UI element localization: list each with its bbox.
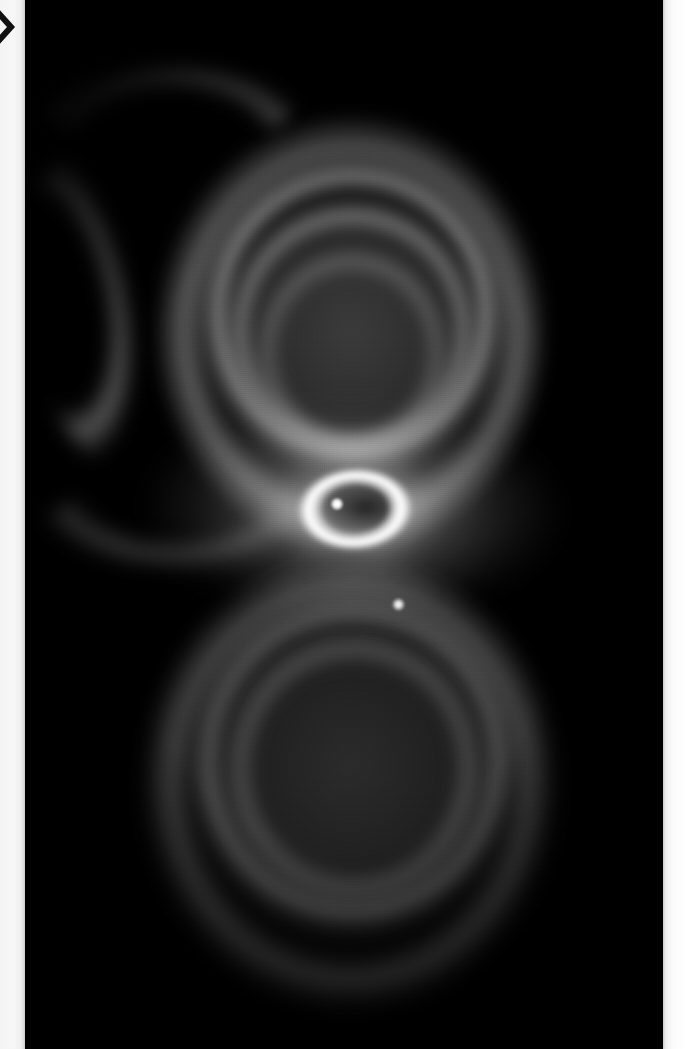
upper-ring-middle (221, 196, 483, 464)
lower-ring-inner (221, 628, 487, 908)
left-gutter-strip (0, 0, 25, 1049)
upper-ring-inner (253, 246, 451, 456)
upper-lobe-rim (153, 112, 549, 554)
waist-right-glow (355, 428, 560, 603)
lower-lobe (143, 560, 557, 1008)
inner-ring-core-shadow (320, 482, 394, 534)
waist-glow (201, 400, 501, 630)
companion-star (392, 598, 405, 611)
inner-ring-halo (273, 432, 437, 580)
page-root: Grayscale astronomical photograph of the… (0, 0, 685, 1049)
upper-lobe-cap-arc (25, 0, 315, 150)
lower-lobe-cap-arc (25, 480, 325, 630)
chevron-right-icon[interactable] (0, 4, 19, 50)
nebula-render (25, 0, 663, 1049)
right-gutter-strip (663, 0, 685, 1049)
lower-lobe-bright-rim (25, 136, 227, 494)
upper-lobe (157, 118, 545, 548)
lower-ring-outer (183, 586, 523, 938)
central-star (331, 498, 343, 510)
upper-ring-outer (193, 150, 511, 480)
image-grain-overlay (25, 0, 663, 1049)
waist-left-glow (145, 430, 335, 600)
nebula-image-plate[interactable]: Grayscale astronomical photograph of the… (25, 0, 663, 1049)
field-vignette (25, 0, 663, 1049)
lower-lobe-rim (139, 552, 561, 1014)
image-alt-text: Grayscale astronomical photograph of the… (25, 0, 26, 1)
inner-bright-ring (292, 462, 418, 556)
